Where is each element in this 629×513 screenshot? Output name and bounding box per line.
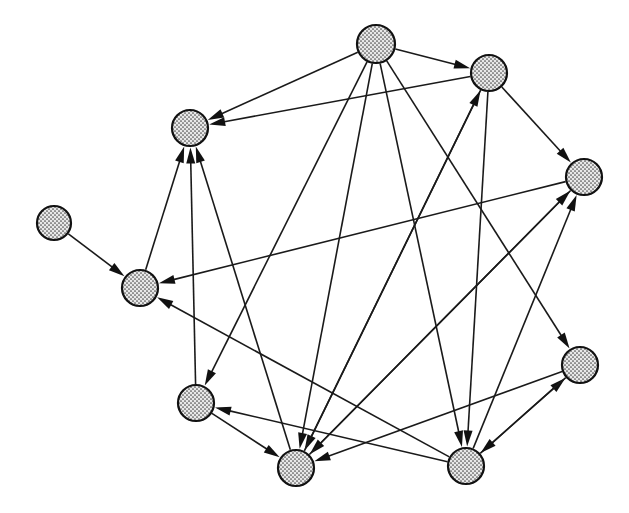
- edge-arrowhead-icon: [566, 195, 576, 212]
- edge-line: [221, 52, 358, 114]
- edges-layer: [68, 49, 576, 462]
- graph-node[interactable]: [278, 450, 314, 486]
- graph-node[interactable]: [37, 206, 71, 240]
- edge-arrowhead-icon: [186, 147, 195, 163]
- graph-node[interactable]: [172, 110, 208, 146]
- graph-node[interactable]: [448, 448, 484, 484]
- edge-arrowhead-icon: [157, 297, 173, 309]
- edge-arrowhead-icon: [557, 333, 569, 349]
- edge-line: [491, 378, 566, 444]
- edge-arrowhead-icon: [264, 445, 280, 457]
- graph-edge: [146, 147, 185, 270]
- graph-edge: [215, 407, 448, 462]
- edge-arrowhead-icon: [196, 147, 205, 164]
- graph-edge: [304, 91, 480, 451]
- edge-arrowhead-icon: [175, 147, 184, 164]
- graph-node[interactable]: [562, 347, 598, 383]
- graph-edge: [395, 49, 470, 69]
- edge-arrowhead-icon: [464, 430, 473, 446]
- graph-edge: [298, 64, 372, 449]
- edge-line: [327, 371, 562, 456]
- edge-line: [173, 182, 566, 280]
- edge-line: [229, 411, 448, 462]
- graph-node[interactable]: [471, 55, 507, 91]
- edge-arrowhead-icon: [314, 452, 331, 462]
- edge-line: [395, 49, 456, 65]
- directed-graph-svg: [0, 0, 629, 513]
- graph-node[interactable]: [122, 270, 158, 306]
- edge-line: [68, 234, 113, 268]
- graph-edge: [186, 147, 195, 384]
- graph-edge: [68, 234, 124, 276]
- edge-line: [304, 103, 474, 451]
- edge-line: [380, 64, 459, 434]
- edge-line: [212, 413, 268, 449]
- graph-edge: [481, 378, 566, 453]
- graph-node[interactable]: [178, 385, 214, 421]
- edge-arrowhead-icon: [159, 275, 176, 284]
- edge-arrowhead-icon: [453, 60, 470, 69]
- graph-node[interactable]: [357, 25, 395, 63]
- edge-line: [191, 161, 196, 384]
- graph-edge: [464, 92, 488, 447]
- edge-arrowhead-icon: [454, 430, 463, 447]
- edge-line: [302, 64, 372, 435]
- graph-edge: [208, 52, 358, 120]
- edge-line: [146, 160, 180, 270]
- edge-arrowhead-icon: [109, 263, 124, 276]
- graph-edge: [387, 61, 570, 349]
- diagram-canvas: [0, 0, 629, 513]
- edge-line: [502, 87, 562, 152]
- edge-line: [223, 76, 470, 122]
- graph-edge: [380, 64, 463, 447]
- edge-line: [468, 92, 488, 433]
- graph-node[interactable]: [566, 159, 602, 195]
- graph-edge: [314, 371, 562, 461]
- graph-edge: [473, 195, 576, 448]
- edge-line: [169, 304, 449, 457]
- nodes-layer: [37, 25, 602, 486]
- edge-arrowhead-icon: [205, 369, 216, 385]
- edge-arrowhead-icon: [215, 407, 232, 416]
- graph-edge: [502, 87, 571, 163]
- graph-edge: [159, 182, 566, 284]
- graph-edge: [309, 191, 570, 455]
- edge-arrowhead-icon: [469, 91, 480, 107]
